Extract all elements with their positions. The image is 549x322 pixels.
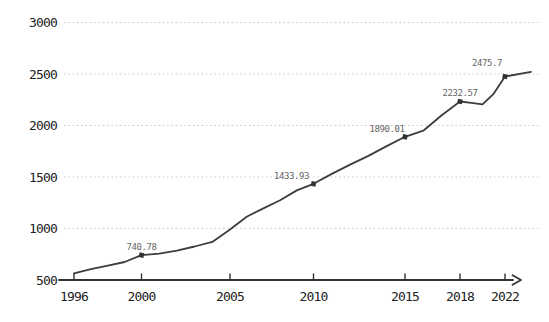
- y-tick-label-2000: 2000: [29, 118, 57, 133]
- line-chart-figure: 50010001500200025003000 1996200020052010…: [0, 0, 549, 322]
- y-tick-label-2500: 2500: [29, 67, 57, 82]
- x-axis: 1996200020052010201520182022: [59, 274, 521, 305]
- y-tick-label-3000: 3000: [29, 15, 57, 30]
- y-axis-labels: 50010001500200025003000: [29, 15, 57, 288]
- x-tick-label-2015: 2015: [391, 289, 419, 304]
- y-tick-label-500: 500: [36, 273, 57, 288]
- data-marker-2010: [311, 181, 317, 187]
- data-marker-2000: [139, 252, 145, 258]
- data-marker-2022: [502, 74, 508, 80]
- x-tick-label-2000: 2000: [127, 289, 155, 304]
- point-value-label-2018: 2232.57: [442, 88, 477, 98]
- x-tick-label-1996: 1996: [60, 289, 88, 304]
- x-tick-label-2018: 2018: [446, 289, 474, 304]
- data-marker-2018: [457, 99, 463, 105]
- y-tick-label-1000: 1000: [29, 221, 57, 236]
- x-tick-label-2010: 2010: [299, 289, 327, 304]
- line-chart: 50010001500200025003000 1996200020052010…: [0, 0, 549, 322]
- point-value-label-2015: 1890.01: [369, 124, 404, 134]
- y-tick-label-1500: 1500: [29, 170, 57, 185]
- point-value-label-2000: 740.78: [126, 242, 156, 252]
- point-value-label-2022: 2475.7: [472, 58, 502, 68]
- point-annotations: 740.781433.931890.012232.572475.7: [126, 58, 502, 253]
- x-tick-label-2005: 2005: [216, 289, 244, 304]
- x-tick-label-2022: 2022: [491, 289, 519, 304]
- gridlines: [64, 23, 541, 229]
- point-value-label-2010: 1433.93: [274, 171, 309, 181]
- data-marker-2015: [402, 134, 408, 140]
